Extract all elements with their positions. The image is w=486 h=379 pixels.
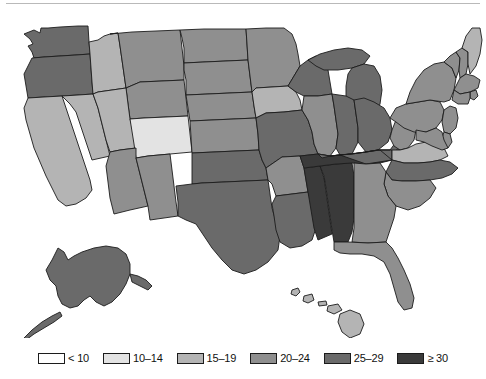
state-oklahoma[interactable] [192,150,268,184]
state-new-york[interactable] [406,62,456,104]
state-florida[interactable] [334,242,414,310]
legend-swatch-20-24 [250,353,277,364]
us-map-svg [0,8,486,338]
state-colorado[interactable] [130,116,192,158]
hawaii-big-island[interactable] [338,310,364,338]
legend-swatch-gte30 [397,353,424,364]
legend-label-10-14: 10–14 [133,353,163,364]
legend-swatch-15-19 [177,353,204,364]
hawaii-molokai[interactable] [318,301,327,306]
state-washington[interactable] [24,26,90,58]
alaska-aleutians[interactable] [24,312,62,338]
legend-label-25-29: 25–29 [354,353,384,364]
state-ohio[interactable] [354,98,392,152]
state-rhode-island[interactable] [470,90,478,100]
legend-label-lt10: < 10 [68,353,89,364]
legend-item-1[interactable]: 10–14 [103,353,163,364]
hawaii-oahu[interactable] [303,294,314,303]
legend-swatch-lt10 [38,353,65,364]
choropleth-figure: < 10 10–14 15–19 20–24 25–29 ≥ 30 [0,0,486,379]
legend-item-0[interactable]: < 10 [38,353,89,364]
legend-item-5[interactable]: ≥ 30 [397,353,448,364]
state-north-dakota[interactable] [180,29,248,63]
legend-swatch-10-14 [103,353,130,364]
state-kansas[interactable] [190,118,259,153]
state-wyoming[interactable] [126,80,188,119]
map-legend: < 10 10–14 15–19 20–24 25–29 ≥ 30 [0,346,486,370]
legend-label-gte30: ≥ 30 [427,353,448,364]
hawaii-kauai[interactable] [291,288,300,296]
alaska-panhandle[interactable] [130,274,152,290]
legend-swatch-25-29 [324,353,351,364]
legend-label-15-19: 15–19 [207,353,237,364]
top-divider-rule [6,3,480,4]
legend-item-2[interactable]: 15–19 [177,353,237,364]
state-new-jersey[interactable] [442,106,458,134]
legend-label-20-24: 20–24 [280,353,310,364]
state-nebraska[interactable] [186,92,256,121]
state-north-carolina[interactable] [386,160,458,181]
us-map-container [0,8,486,338]
state-alaska[interactable] [46,246,130,308]
state-texas[interactable] [176,180,280,274]
state-oregon[interactable] [24,54,93,98]
hawaii-maui[interactable] [327,304,342,314]
legend-item-4[interactable]: 25–29 [324,353,384,364]
state-south-dakota[interactable] [184,60,252,95]
legend-item-3[interactable]: 20–24 [250,353,310,364]
